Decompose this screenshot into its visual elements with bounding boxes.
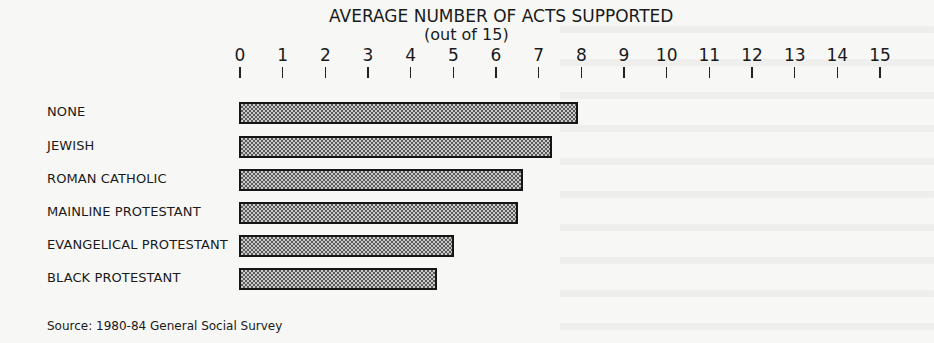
x-tick-label: 11 bbox=[699, 45, 721, 65]
x-tick-mark bbox=[453, 67, 455, 78]
x-tick-mark bbox=[879, 67, 881, 78]
x-tick-label: 6 bbox=[491, 45, 502, 65]
x-tick-mark bbox=[410, 67, 412, 78]
x-tick-mark bbox=[282, 67, 284, 78]
chart-subtitle: (out of 15) bbox=[424, 25, 509, 44]
x-tick-label: 7 bbox=[533, 45, 544, 65]
x-tick-mark bbox=[325, 67, 327, 78]
x-tick-mark bbox=[751, 67, 753, 78]
x-tick-label: 10 bbox=[656, 45, 678, 65]
x-tick-label: 0 bbox=[235, 45, 246, 65]
x-tick-label: 4 bbox=[405, 45, 416, 65]
x-tick-label: 13 bbox=[784, 45, 806, 65]
x-tick-mark bbox=[581, 67, 583, 78]
x-tick-label: 1 bbox=[277, 45, 288, 65]
x-tick-label: 14 bbox=[827, 45, 849, 65]
x-tick-label: 8 bbox=[576, 45, 587, 65]
source-note: Source: 1980-84 General Social Survey bbox=[47, 319, 282, 333]
x-tick-label: 15 bbox=[869, 45, 891, 65]
chart-title: AVERAGE NUMBER OF ACTS SUPPORTED bbox=[329, 6, 673, 26]
bar bbox=[239, 102, 578, 124]
x-tick-label: 5 bbox=[448, 45, 459, 65]
category-label: NONE bbox=[47, 104, 85, 119]
bar bbox=[239, 202, 518, 224]
x-tick-mark bbox=[623, 67, 625, 78]
bar bbox=[239, 268, 437, 290]
x-tick-mark bbox=[837, 67, 839, 78]
x-tick-label: 9 bbox=[619, 45, 630, 65]
category-label: BLACK PROTESTANT bbox=[47, 270, 180, 285]
category-label: EVANGELICAL PROTESTANT bbox=[47, 237, 228, 252]
x-tick-mark bbox=[794, 67, 796, 78]
x-tick-label: 12 bbox=[741, 45, 763, 65]
bar bbox=[239, 169, 523, 191]
x-tick-label: 3 bbox=[363, 45, 374, 65]
category-label: MAINLINE PROTESTANT bbox=[47, 204, 201, 219]
x-tick-mark bbox=[538, 67, 540, 78]
x-tick-mark bbox=[709, 67, 711, 78]
category-label: JEWISH bbox=[47, 138, 94, 153]
category-label: ROMAN CATHOLIC bbox=[47, 171, 167, 186]
bar bbox=[239, 235, 454, 257]
x-tick-label: 2 bbox=[320, 45, 331, 65]
x-tick-mark bbox=[239, 67, 241, 78]
x-tick-mark bbox=[495, 67, 497, 78]
x-tick-mark bbox=[666, 67, 668, 78]
bar bbox=[239, 136, 552, 158]
x-tick-mark bbox=[367, 67, 369, 78]
